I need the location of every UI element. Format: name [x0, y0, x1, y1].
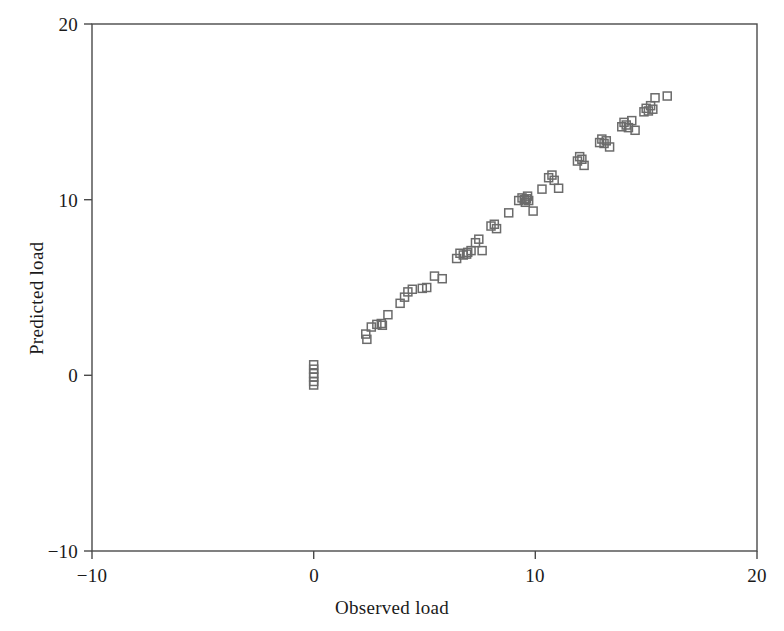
x-tick-label-0: 0: [284, 565, 344, 587]
y-tick-label-neg10: −10: [28, 541, 78, 563]
scatter-plot-figure: 20 10 0 −10 −10 0 10 20 Observed load Pr…: [0, 0, 784, 631]
y-tick-label-0: 0: [38, 365, 78, 387]
y-tick-label-20: 20: [38, 14, 78, 36]
plot-canvas: [0, 0, 784, 631]
x-tick-label-10: 10: [505, 565, 565, 587]
y-tick-label-10: 10: [38, 190, 78, 212]
x-tick-label-neg10: −10: [62, 565, 122, 587]
x-axis-title: Observed load: [0, 597, 784, 619]
x-tick-label-20: 20: [727, 565, 784, 587]
y-axis-title: Predicted load: [26, 242, 48, 355]
